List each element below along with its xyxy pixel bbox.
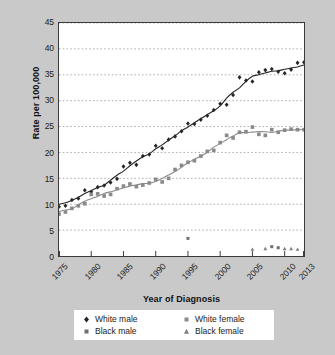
y-axis-tick-label: 10 — [45, 200, 54, 210]
y-axis-tick-label: 20 — [45, 148, 54, 158]
legend-label: White female — [195, 314, 245, 324]
square-icon — [82, 327, 91, 336]
legend-item[interactable]: Black male — [76, 326, 172, 336]
legend-label: Black female — [195, 326, 244, 336]
plot-inner — [59, 23, 304, 256]
y-axis-tick-label: 5 — [49, 226, 54, 236]
y-axis-tick-label: 0 — [49, 252, 54, 262]
triangle-icon — [182, 327, 191, 336]
x-axis-tick-label: 1985 — [99, 261, 134, 296]
y-axis-tick-label: 15 — [45, 174, 54, 184]
data-series-layer — [59, 23, 304, 256]
plot-area — [58, 22, 305, 257]
y-axis-tick-label: 30 — [45, 95, 54, 105]
y-axis-tick-label: 25 — [45, 121, 54, 131]
legend-label: White male — [95, 314, 138, 324]
chart-figure: 051015202530354045 Rate per 100,000 1975… — [14, 4, 321, 345]
legend-item[interactable]: White male — [76, 314, 172, 324]
x-axis-tick-label: 1980 — [67, 261, 102, 296]
x-axis-tick-label: 1975 — [34, 261, 69, 296]
x-axis-title: Year of Diagnosis — [58, 294, 305, 304]
y-axis-title: Rate per 100,000 — [31, 49, 41, 157]
y-axis-tick-label: 35 — [45, 69, 54, 79]
legend-item[interactable]: Black female — [176, 326, 272, 336]
x-axis-tick-label: 1990 — [132, 261, 167, 296]
x-axis-tick-label: 2000 — [197, 261, 232, 296]
y-axis-tick-label: 45 — [45, 17, 54, 27]
chart-legend: White maleWhite femaleBlack maleBlack fe… — [74, 310, 274, 340]
x-axis-tick-labels: 197519801985199019952000200520102013 — [58, 260, 305, 294]
legend-item[interactable]: White female — [176, 314, 272, 324]
x-axis-tick-label: 2005 — [229, 261, 264, 296]
x-axis-tick-label: 1995 — [164, 261, 199, 296]
diamond-icon — [82, 315, 91, 324]
square-icon — [182, 315, 191, 324]
legend-label: Black male — [95, 326, 137, 336]
y-axis-tick-label: 40 — [45, 43, 54, 53]
